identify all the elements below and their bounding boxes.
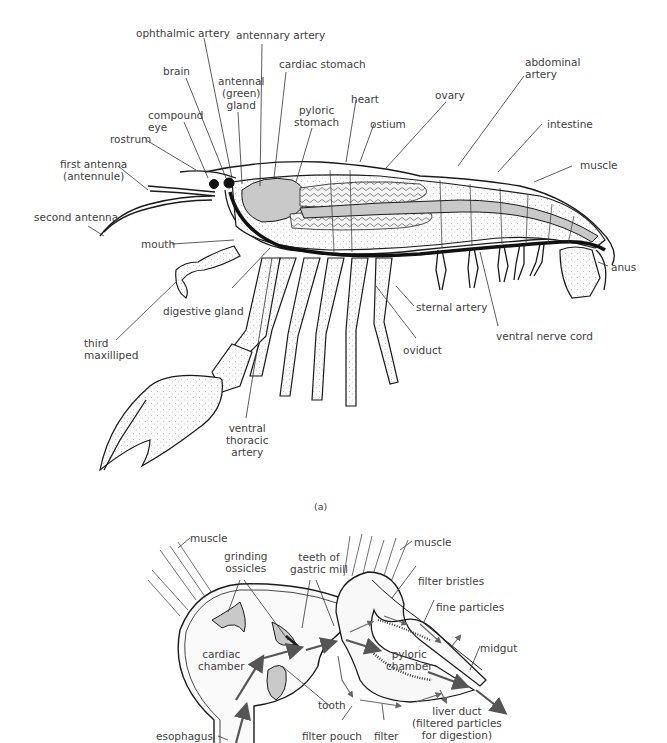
label-compound-eye: compound eye <box>148 109 204 133</box>
label-fine-particles: fine particles <box>436 601 504 613</box>
label-second-antenna: second antenna <box>34 211 118 223</box>
label-cardiac-chamber: cardiac chamber <box>198 648 245 672</box>
label-intestine: intestine <box>547 118 593 130</box>
label-muscle-left: muscle <box>190 532 228 544</box>
label-mouth: mouth <box>141 238 175 250</box>
label-antennal-green-gland: antennal (green) gland <box>218 75 264 111</box>
label-third-maxilliped: third maxilliped <box>84 337 138 361</box>
label-rostrum: rostrum <box>110 133 151 145</box>
label-pyloric-stomach: pyloric stomach <box>294 104 339 128</box>
label-filter-pouch: filter pouch <box>302 730 362 742</box>
label-pyloric-chamber: pyloric chamber <box>386 648 433 672</box>
label-anus: anus <box>611 261 636 273</box>
panel-a-caption: (a) <box>314 501 327 513</box>
label-abdominal-artery: abdominal artery <box>525 56 580 80</box>
label-heart: heart <box>351 93 379 105</box>
label-tooth: tooth <box>318 699 346 711</box>
label-first-antenna: first antenna (antennule) <box>60 158 127 182</box>
label-esophagus: esophagus <box>156 730 213 742</box>
label-brain: brain <box>163 65 190 77</box>
label-teeth-of-gastric-mill: teeth of gastric mill <box>290 551 348 575</box>
label-ophthalmic-artery: ophthalmic artery <box>136 27 230 39</box>
label-digestive-gland: digestive gland <box>163 305 244 317</box>
label-oviduct: oviduct <box>403 344 442 356</box>
label-antennary-artery: antennary artery <box>236 29 325 41</box>
label-grinding-ossicles: grinding ossicles <box>224 550 267 574</box>
label-muscle-right: muscle <box>414 536 452 548</box>
label-sternal-artery: sternal artery <box>416 301 487 313</box>
label-ovary: ovary <box>435 89 465 101</box>
label-filter: filter <box>374 730 398 742</box>
label-liver-duct: liver duct (filtered particles for diges… <box>412 705 502 741</box>
label-midgut: midgut <box>480 642 517 654</box>
label-muscle: muscle <box>580 159 618 171</box>
label-ostium: ostium <box>370 118 406 130</box>
label-filter-bristles: filter bristles <box>418 575 484 587</box>
label-ventral-thoracic-artery: ventral thoracic artery <box>226 422 268 458</box>
label-cardiac-stomach: cardiac stomach <box>279 58 366 70</box>
label-ventral-nerve-cord: ventral nerve cord <box>496 330 593 342</box>
